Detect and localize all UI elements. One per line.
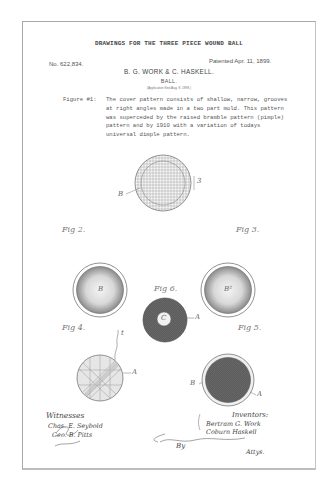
fig3-ref: B² (224, 285, 232, 293)
inventor-2: Coburn Haskell (206, 428, 257, 436)
inventor-1: Bertram G. Work (206, 420, 261, 428)
witnesses-label: Witnesses (46, 412, 84, 420)
fig6-ref-a: A (195, 313, 200, 321)
fig1-ref-s: 3 (197, 177, 201, 185)
fig6-label: Fig 6. (154, 284, 177, 293)
fig4-ref-a: A (132, 368, 137, 376)
fig5-ref-a: A (257, 390, 262, 398)
fig1-ref-b: B (118, 190, 123, 198)
fig6-ref-c: C (161, 314, 166, 322)
figure-5-covered-ball (199, 354, 256, 406)
figure-6-cross-section (143, 298, 194, 342)
fig2-ref: B (98, 285, 103, 293)
inventors-label: Inventors: (232, 411, 268, 419)
attorney-label: Attys. (246, 448, 265, 456)
fig2-label: Fig 2. (62, 225, 85, 234)
figure-1-ball (126, 155, 194, 211)
fig3-label: Fig 3. (236, 225, 259, 234)
fig4-label: Fig 4. (62, 323, 85, 332)
by-label: By (176, 442, 185, 450)
fig5-ref-b: B (190, 379, 195, 387)
witness-2: Geo. B. Pitts (52, 431, 92, 439)
fig4-ref-t: t (121, 329, 124, 337)
witness-1: Chas. E. Seybold (48, 422, 103, 430)
figure-4-wound-core (77, 330, 131, 402)
fig5-label: Fig 5. (238, 323, 261, 332)
